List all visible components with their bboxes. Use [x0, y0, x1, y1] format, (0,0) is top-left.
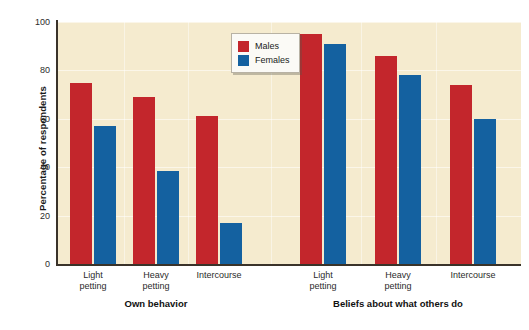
- x-tick-label: Intercourse: [450, 270, 495, 281]
- gridline-vertical: [361, 22, 362, 264]
- legend-item-males: Males: [238, 39, 290, 53]
- bar-females-heavy-petting-panel2: [399, 75, 421, 264]
- bar-males-heavy-petting-panel2: [375, 56, 397, 264]
- y-tick-label: 20: [0, 211, 50, 221]
- x-tick-label-line2: petting: [309, 281, 336, 292]
- gridline-horizontal: [58, 22, 521, 23]
- bar-males-light-petting-panel1: [70, 83, 92, 265]
- x-tick-label: Heavypetting: [142, 270, 169, 291]
- panel-label-1: Own behavior: [125, 298, 188, 309]
- x-tick-label: Heavypetting: [384, 270, 411, 291]
- legend-item-females: Females: [238, 53, 290, 67]
- legend-label-males: Males: [255, 41, 279, 51]
- x-tick-label-line1: Light: [79, 270, 106, 281]
- x-tick-label-line2: petting: [384, 281, 411, 292]
- y-tick-label: 60: [0, 114, 50, 124]
- bar-males-intercourse-panel1: [196, 116, 218, 264]
- gridline-vertical: [124, 22, 125, 264]
- y-tick-label: 40: [0, 162, 50, 172]
- x-tick-label-line1: Light: [309, 270, 336, 281]
- legend: Males Females: [231, 33, 300, 73]
- legend-swatch-males-icon: [238, 41, 249, 52]
- legend-swatch-females-icon: [238, 55, 249, 66]
- y-tick-label: 100: [0, 17, 50, 27]
- panel-label-2: Beliefs about what others do: [333, 298, 463, 309]
- x-tick-label-line1: Intercourse: [196, 270, 241, 281]
- x-tick-label: Intercourse: [196, 270, 241, 281]
- bar-males-heavy-petting-panel1: [133, 97, 155, 264]
- bar-chart-figure: Percentage of respondents 020406080100 L…: [0, 0, 529, 330]
- y-tick-label: 80: [0, 65, 50, 75]
- gridline-vertical: [436, 22, 437, 264]
- x-tick-label-line1: Heavy: [384, 270, 411, 281]
- bar-females-intercourse-panel2: [474, 119, 496, 264]
- bar-females-intercourse-panel1: [220, 223, 242, 264]
- gridline-vertical: [188, 22, 189, 264]
- x-axis-line: [56, 264, 521, 266]
- bar-females-heavy-petting-panel1: [157, 171, 179, 264]
- x-tick-label: Lightpetting: [309, 270, 336, 291]
- x-tick-label-line2: petting: [142, 281, 169, 292]
- x-tick-label: Lightpetting: [79, 270, 106, 291]
- bar-males-intercourse-panel2: [450, 85, 472, 264]
- x-tick-label-line2: petting: [79, 281, 106, 292]
- bar-females-light-petting-panel1: [94, 126, 116, 264]
- x-tick-label-line1: Intercourse: [450, 270, 495, 281]
- x-tick-label-line1: Heavy: [142, 270, 169, 281]
- y-tick-label: 0: [0, 259, 50, 269]
- legend-label-females: Females: [255, 55, 290, 65]
- bar-males-light-petting-panel2: [300, 34, 322, 264]
- bar-females-light-petting-panel2: [324, 44, 346, 264]
